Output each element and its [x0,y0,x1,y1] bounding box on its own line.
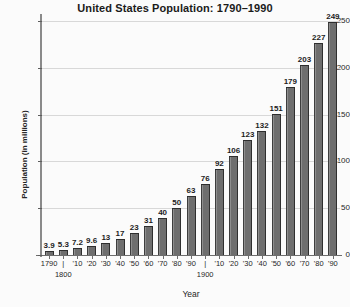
bar [172,208,181,255]
bar [300,65,309,255]
x-tick-sublabel: 1900 [190,270,220,279]
chart-title: United States Population: 1790–1990 [0,2,350,14]
bar [328,22,337,255]
bar [215,169,224,255]
bar [243,140,252,255]
bar [101,243,110,255]
bar [229,156,238,255]
bar [45,251,54,255]
bar [144,226,153,255]
bar [158,218,167,255]
plot-area: 3.95.37.29.61317233140506376921061231321… [42,16,340,256]
y-axis-title: Population (in millions) [20,80,29,230]
bar [257,131,266,255]
gridline [42,161,340,162]
bar [286,87,295,255]
population-bar-chart: United States Population: 1790–1990 Popu… [0,0,350,307]
bar [116,239,125,255]
x-axis-title: Year [42,289,340,299]
x-tick-sublabel: 1800 [48,270,78,279]
bar [201,184,210,255]
gridline [42,115,340,116]
gridline [42,21,340,22]
x-tick-label: '90 [323,259,343,268]
bar [87,246,96,255]
bar-value-label: 249 [320,12,346,21]
bar [272,114,281,255]
gridline [42,68,340,69]
bar [130,233,139,255]
bar [187,196,196,255]
bar [59,250,68,255]
bar [314,43,323,255]
bar [73,248,82,255]
